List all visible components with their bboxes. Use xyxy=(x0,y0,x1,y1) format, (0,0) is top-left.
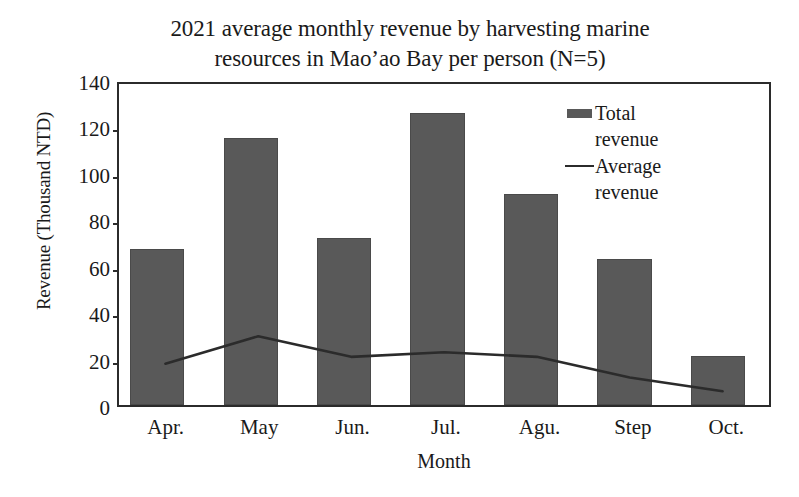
y-tick-label: 0 xyxy=(100,396,111,421)
x-tick-label: Agu. xyxy=(519,415,560,440)
x-axis-title: Month xyxy=(117,450,771,473)
average-revenue-polyline xyxy=(165,336,722,391)
y-tick-label: 140 xyxy=(79,71,111,96)
y-tick-label: 100 xyxy=(79,164,111,189)
y-tick-label: 60 xyxy=(89,257,110,282)
x-tick-label: Jun. xyxy=(335,415,369,440)
x-tick-label: Jul. xyxy=(431,415,461,440)
chart-legend: Totalrevenue Averagerevenue xyxy=(565,100,755,206)
y-tick-label: 80 xyxy=(89,210,110,235)
chart-title: 2021 average monthly revenue by harvesti… xyxy=(90,14,730,74)
y-tick-label: 20 xyxy=(89,350,110,375)
y-tick-label: 40 xyxy=(89,303,110,328)
chart-title-line-1: 2021 average monthly revenue by harvesti… xyxy=(170,16,649,41)
x-tick-label: Oct. xyxy=(708,415,744,440)
legend-bar-swatch-icon xyxy=(565,100,595,126)
x-tick-label: May xyxy=(240,415,279,440)
legend-item-total-revenue-label: Totalrevenue xyxy=(595,100,755,152)
legend-item-average-revenue-label: Averagerevenue xyxy=(595,153,755,205)
legend-line-swatch-icon xyxy=(565,153,595,179)
x-tick-label: Apr. xyxy=(147,415,184,440)
legend-item-total-revenue: Totalrevenue xyxy=(565,100,755,152)
chart-figure: 2021 average monthly revenue by harvesti… xyxy=(0,0,799,497)
legend-item-average-revenue: Averagerevenue xyxy=(565,153,755,205)
chart-title-line-2: resources in Mao’ao Bay per person (N=5) xyxy=(90,44,730,74)
x-tick-label: Step xyxy=(614,415,651,440)
y-tick-label: 120 xyxy=(79,117,111,142)
y-axis-title: Revenue (Thousand NTD) xyxy=(33,81,55,341)
